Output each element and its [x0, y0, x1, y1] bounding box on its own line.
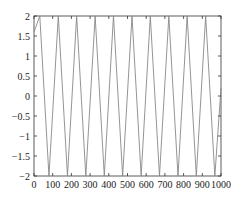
series-layer [34, 16, 221, 176]
y-tick-label: −0.5 [12, 111, 30, 122]
y-tick-label: 1 [25, 51, 30, 62]
x-axis-ticks: 01002003004005006007008009001000 [32, 16, 232, 190]
y-tick-label: 0.5 [18, 71, 31, 82]
y-tick-label: 0 [25, 91, 30, 102]
y-tick-label: −1.5 [12, 151, 30, 162]
x-tick-label: 800 [176, 179, 191, 190]
x-tick-label: 500 [120, 179, 135, 190]
y-tick-label: −2 [19, 171, 30, 182]
x-tick-label: 400 [101, 179, 116, 190]
y-tick-label: 1.5 [18, 31, 31, 42]
x-tick-label: 1000 [211, 179, 231, 190]
y-tick-label: 2 [25, 11, 30, 22]
line-chart: 01002003004005006007008009001000 21.510.… [0, 0, 246, 203]
x-tick-label: 300 [83, 179, 98, 190]
x-tick-label: 100 [45, 179, 60, 190]
series-line-signal [34, 16, 221, 176]
x-tick-label: 700 [157, 179, 172, 190]
x-tick-label: 200 [64, 179, 79, 190]
x-tick-label: 600 [139, 179, 154, 190]
x-tick-label: 0 [32, 179, 37, 190]
y-tick-label: −1 [19, 131, 30, 142]
x-tick-label: 900 [195, 179, 210, 190]
y-axis-ticks: 21.510.50−0.5−1−1.5−2 [12, 11, 221, 182]
